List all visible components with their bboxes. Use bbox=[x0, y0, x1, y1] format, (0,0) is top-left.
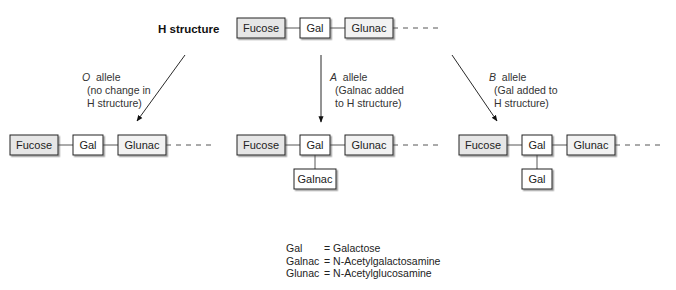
o-allele-label: O allele (no change in H structure) bbox=[82, 71, 151, 110]
h-structure-title: H structure bbox=[158, 23, 219, 36]
legend-row: Galnac= N-Acetylgalactosamine bbox=[286, 255, 440, 268]
result-a-fucose-box-label: Fucose bbox=[243, 139, 279, 151]
h-structure-gal-box-label: Gal bbox=[306, 22, 323, 34]
legend-row: Glunac= N-Acetylglucosamine bbox=[286, 267, 440, 280]
result-a-gal-box-label: Gal bbox=[306, 139, 323, 151]
h-structure-fucose-box-label: Fucose bbox=[243, 22, 279, 34]
a-allele-label: A allele (Galnac added to H structure) bbox=[330, 71, 404, 110]
result-a-branch-galnac-box-label: Galnac bbox=[298, 173, 333, 185]
b-allele-label: B allele (Gal added to H structure) bbox=[489, 71, 558, 110]
result-b-branch-gal-box-label: Gal bbox=[528, 173, 545, 185]
result-o-fucose-box-label: Fucose bbox=[16, 139, 52, 151]
result-b-gal-box-label: Gal bbox=[528, 139, 545, 151]
result-a-glunac-box-label: Glunac bbox=[352, 139, 387, 151]
h-structure-glunac-box-label: Glunac bbox=[352, 22, 387, 34]
legend-row: Gal= Galactose bbox=[286, 242, 440, 255]
result-o-glunac-box-label: Glunac bbox=[125, 139, 160, 151]
result-b-fucose-box-label: Fucose bbox=[465, 139, 501, 151]
result-b-glunac-box-label: Glunac bbox=[574, 139, 609, 151]
result-o-gal-box-label: Gal bbox=[79, 139, 96, 151]
legend: Gal= Galactose Galnac= N-Acetylgalactosa… bbox=[286, 242, 440, 280]
